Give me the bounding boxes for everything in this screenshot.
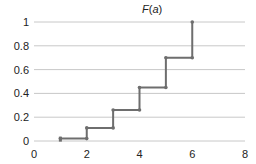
step-point (190, 20, 194, 24)
cdf-step-series (59, 20, 194, 141)
step-point (138, 86, 142, 90)
y-tick-label: 0 (23, 135, 29, 147)
chart-title: F(a) (142, 3, 162, 15)
step-corner-point (164, 86, 168, 90)
step-point (111, 108, 115, 112)
step-corner-point (190, 56, 194, 60)
x-tick-label: 4 (136, 148, 142, 160)
step-point (164, 56, 168, 60)
step-corner-point (111, 126, 115, 130)
y-tick-label: 1 (23, 16, 29, 28)
x-axis-ticks: 02468 (31, 148, 248, 160)
y-tick-label: 0.4 (14, 87, 29, 99)
gridlines (34, 22, 245, 141)
step-chart: 00.20.40.60.81 02468 F(a) (0, 0, 256, 164)
y-axis-ticks: 00.20.40.60.81 (14, 16, 29, 147)
step-corner-point (85, 137, 89, 141)
y-tick-label: 0.8 (14, 40, 29, 52)
y-tick-label: 0.2 (14, 111, 29, 123)
step-point (85, 126, 89, 130)
x-tick-label: 8 (242, 148, 248, 160)
step-line (60, 22, 192, 139)
x-tick-label: 0 (31, 148, 37, 160)
y-tick-label: 0.6 (14, 64, 29, 76)
x-tick-label: 6 (189, 148, 195, 160)
step-corner-point (138, 108, 142, 112)
start-marker (59, 137, 62, 142)
x-tick-label: 2 (84, 148, 90, 160)
